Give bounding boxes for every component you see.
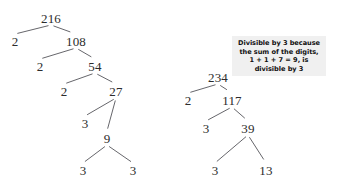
divisibility-note-line: 1 + 1 + 7 = 9, is [237, 56, 321, 65]
tree-edge [250, 138, 264, 160]
tree-node-108: 108 [66, 35, 86, 48]
tree-edge [217, 137, 246, 161]
tree-node-2: 2 [37, 60, 44, 73]
tree-edge [98, 74, 112, 81]
tree-edge [85, 147, 104, 162]
tree-node-39: 39 [241, 122, 254, 135]
divisibility-note-line: divisible by 3 [237, 65, 321, 74]
tree-node-2: 2 [61, 85, 68, 98]
tree-node-3: 3 [212, 164, 219, 177]
tree-node-2: 2 [12, 35, 19, 48]
divisibility-note: Divisible by 3 becausethe sum of the dig… [232, 36, 326, 76]
tree-node-234: 234 [208, 71, 228, 84]
tree-node-3: 3 [80, 164, 87, 177]
divisibility-note-line: the sum of the digits, [237, 48, 321, 57]
tree-node-3: 3 [82, 117, 89, 130]
tree-edge [208, 108, 229, 119]
tree-node-13: 13 [259, 164, 272, 177]
tree-node-9: 9 [104, 132, 111, 145]
tree-edge [87, 100, 113, 115]
tree-edge [221, 86, 227, 90]
tree-node-3: 3 [203, 122, 210, 135]
tree-edge [18, 26, 48, 34]
tree-edge [43, 49, 73, 58]
tree-node-3: 3 [130, 164, 137, 177]
tree-edge [109, 147, 130, 162]
tree-edge [234, 109, 244, 118]
tree-node-216: 216 [41, 12, 61, 25]
tree-edge [191, 85, 215, 92]
tree-edges-layer [0, 0, 337, 189]
tree-node-54: 54 [88, 60, 101, 73]
tree-edge [79, 50, 91, 57]
divisibility-note-line: Divisible by 3 because [237, 39, 321, 48]
tree-edge [108, 101, 115, 128]
factor-tree-figure: 216210825422739332342117339313 Divisible… [0, 0, 337, 189]
tree-node-2: 2 [185, 94, 192, 107]
tree-edge [67, 74, 93, 83]
tree-node-27: 27 [109, 85, 122, 98]
tree-node-117: 117 [222, 94, 242, 107]
tree-edge [54, 26, 70, 32]
